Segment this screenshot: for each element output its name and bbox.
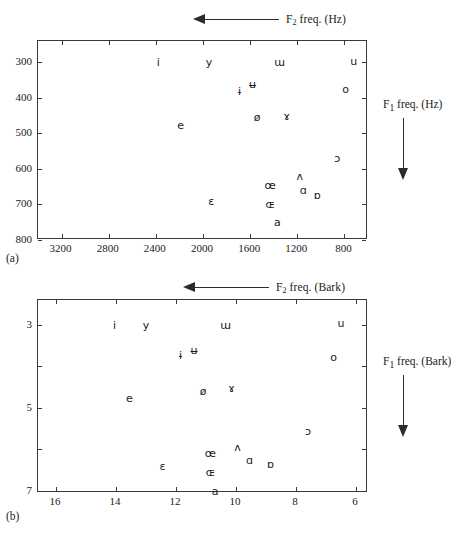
vowel-symbol: ɶ: [206, 467, 215, 478]
x-tick-label: 3200: [50, 242, 72, 254]
y-tick-right: [362, 449, 366, 450]
vowel-symbol: y: [143, 319, 150, 330]
x-tick: [296, 487, 297, 491]
y-tick-label: 300: [1, 55, 32, 67]
y-tick: [38, 240, 42, 241]
y-tick: [38, 491, 42, 492]
vowel-symbol: o: [342, 83, 349, 94]
x-tick: [203, 234, 204, 238]
vowel-plot-b: iyɯuɨʉoeøɤɔʌœɑɒɛɶa: [37, 299, 367, 492]
vowel-symbol: ɶ: [265, 199, 274, 210]
y-tick-right: [362, 98, 366, 99]
vowel-symbol: ɛ: [160, 461, 166, 472]
vowel-symbol: ʌ: [296, 171, 303, 182]
vowel-symbol: o: [330, 352, 337, 363]
vowel-symbol: a: [274, 217, 281, 228]
y-tick: [38, 169, 42, 170]
x-tick-top: [156, 41, 157, 45]
down-arrow-icon-b: [398, 375, 409, 437]
x-tick: [156, 234, 157, 238]
vowel-symbol: e: [126, 392, 133, 403]
y-tick-label: 400: [1, 91, 32, 103]
f2-axis-caption-b: F2 freq. (Bark): [276, 281, 345, 293]
x-tick-top: [116, 300, 117, 304]
y-tick-right: [362, 366, 366, 367]
f1-axis-caption-b: F1 freq. (Bark): [383, 355, 451, 370]
vowel-symbol: ɨ: [179, 349, 182, 360]
x-tick: [176, 487, 177, 491]
x-tick-label: 2000: [191, 242, 213, 254]
vowel-symbol: ɔ: [305, 425, 311, 436]
vowel-symbol: ʌ: [234, 442, 241, 453]
y-tick: [38, 133, 42, 134]
y-tick: [38, 449, 42, 450]
y-tick: [38, 98, 42, 99]
y-tick-right: [362, 240, 366, 241]
y-tick-right: [362, 62, 366, 63]
figure-panel-b: F2 freq. (Bark) iyɯuɨʉoeøɤɔʌœɑɒɛɶa F1 fr…: [0, 272, 445, 545]
x-tick-top: [296, 300, 297, 304]
y-tick: [38, 408, 42, 409]
y-tick-label: 500: [1, 126, 32, 138]
y-tick-label: 7: [1, 484, 32, 496]
x-tick-label: 16: [50, 495, 61, 507]
y-tick-label: 800: [1, 233, 32, 245]
vowel-symbol: œ: [265, 179, 276, 190]
x-tick-top: [176, 300, 177, 304]
x-tick: [236, 487, 237, 491]
y-tick-label: 5: [1, 401, 32, 413]
x-tick: [109, 234, 110, 238]
f2-axis-caption-row-b: F2 freq. (Bark): [183, 278, 345, 296]
x-tick-label: 800: [335, 242, 352, 254]
x-tick-label: 6: [352, 495, 358, 507]
vowel-symbol: u: [350, 55, 357, 66]
f2-axis-caption-row-a: F2 freq. (Hz): [193, 10, 346, 28]
y-tick-label: 700: [1, 197, 32, 209]
vowel-symbol: ɑ: [246, 454, 253, 465]
vowel-symbol: ɑ: [300, 185, 307, 196]
y-tick-right: [362, 169, 366, 170]
left-arrow-icon: [193, 14, 279, 25]
x-tick-label: 8: [292, 495, 298, 507]
x-tick-top: [203, 41, 204, 45]
x-tick-label: 2800: [97, 242, 119, 254]
down-arrow-icon-a: [398, 118, 409, 180]
vowel-symbol: e: [177, 119, 184, 130]
x-tick-top: [109, 41, 110, 45]
x-tick-label: 10: [230, 495, 241, 507]
y-tick-label: 3: [1, 318, 32, 330]
x-tick-top: [62, 41, 63, 45]
vowel-symbol: i: [113, 319, 116, 330]
panel-label-b: (b): [6, 510, 19, 522]
x-tick-top: [250, 41, 251, 45]
vowel-symbol: u: [338, 317, 345, 328]
vowel-symbol: ʉ: [191, 344, 198, 355]
vowel-symbol: a: [212, 485, 219, 496]
x-tick-label: 1200: [285, 242, 307, 254]
f2-axis-caption-a: F2 freq. (Hz): [286, 13, 346, 25]
vowel-symbol: y: [206, 57, 213, 68]
y-tick-right: [362, 133, 366, 134]
x-tick: [62, 234, 63, 238]
y-tick: [38, 325, 42, 326]
x-tick-top: [56, 300, 57, 304]
x-tick-top: [344, 41, 345, 45]
left-arrow-icon: [183, 282, 269, 293]
x-tick-top: [297, 41, 298, 45]
x-tick-label: 1600: [238, 242, 260, 254]
x-tick-top: [236, 300, 237, 304]
vowel-symbol: ɔ: [334, 153, 340, 164]
vowel-symbol: ɒ: [314, 189, 321, 200]
vowel-symbol: ɯ: [220, 319, 231, 330]
x-tick: [297, 234, 298, 238]
vowel-symbol: i: [157, 57, 160, 68]
x-tick-label: 2400: [144, 242, 166, 254]
vowel-symbol: œ: [205, 447, 216, 458]
vowel-symbol: ø: [200, 386, 207, 397]
figure-panel-a: F2 freq. (Hz) iyɯuɨʉoeøɤɔʌœɑɒɛɶa F1 freq…: [0, 0, 445, 272]
y-tick-right: [362, 408, 366, 409]
f1-axis-caption-a: F1 freq. (Hz): [383, 98, 442, 113]
x-tick: [56, 487, 57, 491]
x-tick: [250, 234, 251, 238]
y-tick-right: [362, 491, 366, 492]
